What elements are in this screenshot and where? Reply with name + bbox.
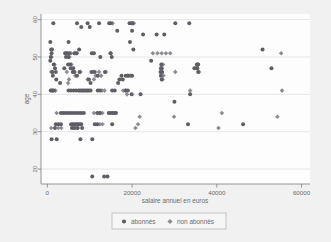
data-point	[186, 122, 190, 126]
data-point	[67, 55, 71, 59]
data-point	[75, 21, 79, 25]
data-point	[90, 137, 94, 141]
data-point	[162, 33, 166, 37]
data-point	[79, 25, 83, 29]
data-point	[50, 51, 54, 55]
data-point	[51, 21, 55, 25]
data-point	[96, 74, 100, 78]
data-point	[52, 62, 56, 66]
legend-label-non-abonnes: non abonnés	[177, 218, 214, 225]
data-point	[188, 92, 192, 96]
scatter-plot: 2030405060 0200004000060000 age salaire …	[0, 0, 331, 242]
data-point	[116, 81, 120, 85]
data-point	[131, 21, 135, 25]
data-point	[106, 175, 110, 179]
data-point	[48, 59, 52, 63]
plot-area-background	[41, 14, 310, 184]
data-point	[77, 47, 81, 51]
data-point	[93, 70, 97, 74]
data-point	[58, 81, 62, 85]
data-point	[54, 77, 58, 81]
data-point	[98, 55, 102, 59]
data-point	[159, 74, 163, 78]
x-tick-label: 0	[46, 189, 50, 196]
data-point	[113, 89, 117, 93]
data-point	[130, 29, 134, 33]
data-point	[187, 21, 191, 25]
data-point	[92, 51, 96, 55]
data-point	[59, 122, 63, 126]
data-point	[79, 122, 83, 126]
data-point	[119, 74, 123, 78]
data-point	[141, 33, 145, 37]
x-tick-label: 20000	[123, 189, 141, 196]
data-point	[51, 74, 55, 78]
y-tick-label: 40	[31, 90, 38, 97]
data-point	[126, 89, 130, 93]
data-point	[196, 62, 200, 66]
data-point	[159, 62, 163, 66]
data-point	[155, 33, 159, 37]
data-point	[54, 70, 58, 74]
data-point	[75, 51, 79, 55]
data-point	[131, 47, 135, 51]
data-point	[78, 70, 82, 74]
data-point	[62, 66, 66, 70]
data-point	[95, 122, 99, 126]
data-point	[55, 137, 59, 141]
data-point	[53, 66, 57, 70]
data-point	[160, 77, 164, 81]
x-tick-label: 60000	[293, 189, 311, 196]
data-point	[71, 66, 75, 70]
y-axis-title: age	[23, 93, 31, 104]
legend-marker-abonnes	[122, 219, 126, 223]
data-point	[172, 100, 176, 104]
data-point	[160, 70, 164, 74]
data-point	[115, 29, 119, 33]
data-point	[173, 21, 177, 25]
legend: abonnés non abonnés	[112, 213, 226, 229]
y-tick-label: 30	[31, 128, 38, 135]
data-point	[89, 89, 93, 93]
data-point	[97, 21, 101, 25]
data-point	[160, 66, 164, 70]
data-point	[52, 89, 56, 93]
data-point	[98, 89, 102, 93]
data-point	[88, 25, 92, 29]
data-point	[87, 77, 91, 81]
data-point	[110, 55, 114, 59]
data-point	[110, 122, 114, 126]
data-point	[121, 77, 125, 81]
data-point	[103, 70, 107, 74]
data-point	[67, 51, 71, 55]
data-point	[128, 40, 132, 44]
data-point	[80, 126, 84, 130]
data-point	[82, 111, 86, 115]
data-point	[195, 66, 199, 70]
data-point	[50, 47, 54, 51]
data-point	[130, 92, 134, 96]
data-point	[75, 74, 79, 78]
data-point	[75, 126, 79, 130]
y-tick-label: 50	[31, 53, 38, 60]
data-point	[130, 74, 134, 78]
data-point	[261, 47, 265, 51]
data-point	[78, 137, 82, 141]
data-point	[269, 66, 273, 70]
data-point	[72, 70, 76, 74]
data-point	[68, 62, 72, 66]
data-point	[67, 40, 71, 44]
data-point	[98, 111, 102, 115]
data-point	[241, 122, 245, 126]
data-point	[139, 92, 143, 96]
y-tick-label: 20	[31, 165, 38, 172]
x-tick-label: 40000	[208, 189, 226, 196]
data-point	[114, 111, 118, 115]
y-tick-label: 60	[31, 16, 38, 23]
data-point	[49, 55, 53, 59]
data-point	[89, 81, 93, 85]
data-point	[53, 126, 57, 130]
data-point	[109, 21, 113, 25]
x-axis-title: salaire annuel en euros	[142, 197, 208, 204]
chart-figure: 2030405060 0200004000060000 age salaire …	[0, 0, 331, 242]
